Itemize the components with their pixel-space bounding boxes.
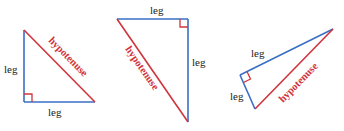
hypotenuse	[117, 19, 188, 122]
right-angle-marker	[180, 19, 188, 27]
hypotenuse-label: hypotenuse	[47, 35, 91, 79]
hypotenuse-label: hypotenuse	[277, 60, 321, 104]
hypotenuse-label: hypotenuse	[123, 44, 161, 92]
hypotenuse	[255, 29, 333, 109]
triangle-3: leg leg hypotenuse	[230, 29, 333, 109]
right-triangles-diagram: leg leg hypotenuse leg leg hypotenuse le…	[0, 0, 344, 131]
leg-label-short: leg	[230, 90, 244, 102]
leg-label-long: leg	[251, 47, 265, 59]
triangle-1: leg leg hypotenuse	[4, 30, 95, 118]
leg-label-vertical: leg	[4, 63, 18, 75]
triangle-2: leg leg hypotenuse	[117, 4, 206, 122]
leg-label-vertical: leg	[192, 56, 206, 68]
leg-label-top: leg	[150, 4, 164, 16]
leg-label-horizontal: leg	[48, 106, 62, 118]
right-angle-marker	[24, 94, 32, 102]
